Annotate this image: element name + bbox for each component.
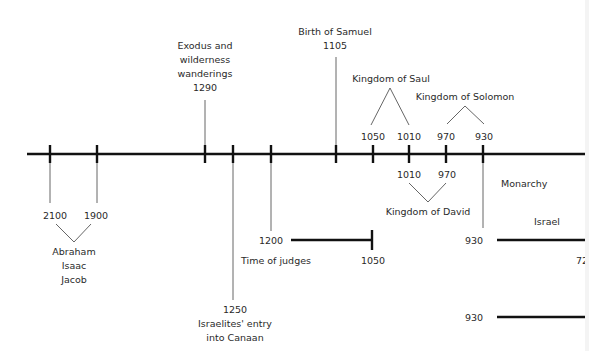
solomon-bracket	[447, 106, 484, 124]
judges-end-year: 1050	[361, 255, 385, 266]
solomon-start-year: 970	[437, 131, 455, 142]
saul-label: Kingdom of Saul	[352, 73, 430, 84]
solomon-label: Kingdom of Solomon	[416, 91, 515, 102]
david-kingdom: 1010 970 Kingdom of David	[386, 169, 471, 217]
name-abraham: Abraham	[52, 246, 95, 257]
year-1900: 1900	[84, 210, 108, 221]
saul-end-year: 1010	[397, 131, 421, 142]
saul-bracket	[371, 88, 409, 125]
israel-label: Israel	[534, 216, 560, 227]
judges-event: 1200 Time of judges 1050	[240, 163, 385, 266]
entry-year: 1250	[223, 304, 247, 315]
samuel-event: Birth of Samuel 1105	[298, 26, 372, 145]
patriarchs-event: 2100 1900 Abraham Isaac Jacob	[43, 163, 108, 285]
name-jacob: Jacob	[60, 274, 87, 285]
david-label: Kingdom of David	[386, 206, 471, 217]
solomon-end-year: 930	[475, 131, 493, 142]
david-bracket	[409, 183, 446, 202]
exodus-label-line2: wilderness	[180, 54, 230, 65]
exodus-label-line3: wanderings	[177, 68, 232, 79]
david-start-year: 1010	[397, 169, 421, 180]
entry-event: 1250 Israelites' entry into Canaan	[198, 163, 272, 343]
year-2100: 2100	[43, 210, 67, 221]
judah-start-year: 930	[465, 312, 483, 323]
israel-start-year: 930	[465, 235, 483, 246]
samuel-label: Birth of Samuel	[298, 26, 372, 37]
patriarchs-bracket	[56, 224, 91, 242]
samuel-year: 1105	[323, 40, 347, 51]
monarchy-label: Monarchy	[501, 178, 548, 189]
monarchy-section: Monarchy Israel 930 72 930	[465, 163, 589, 323]
entry-label-line1: Israelites' entry	[198, 318, 272, 329]
entry-label-line2: into Canaan	[206, 332, 263, 343]
saul-kingdom: Kingdom of Saul 1050 1010	[352, 73, 430, 142]
judges-start-year: 1200	[259, 235, 283, 246]
exodus-label-line1: Exodus and	[177, 40, 232, 51]
name-isaac: Isaac	[62, 260, 87, 271]
timeline-diagram: 2100 1900 Abraham Isaac Jacob Exodus and…	[0, 0, 589, 351]
exodus-event: Exodus and wilderness wanderings 1290	[177, 40, 232, 145]
page-edge-shadow	[585, 0, 589, 351]
david-end-year: 970	[438, 169, 456, 180]
judges-label: Time of judges	[240, 255, 311, 266]
saul-start-year: 1050	[361, 131, 385, 142]
exodus-year: 1290	[193, 82, 217, 93]
solomon-kingdom: Kingdom of Solomon 970 930	[416, 91, 515, 142]
